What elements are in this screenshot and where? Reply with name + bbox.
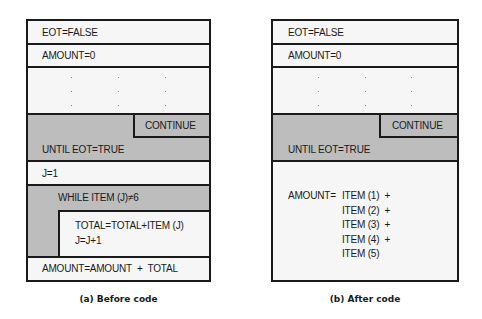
amount-sum-block: AMOUNT= ITEM (1) + ITEM (2) + ITEM (3) +… [273,162,457,280]
amount-label: AMOUNT= [288,190,336,201]
j-init-text: J=1 [42,168,58,179]
after-code-diagram: EOT=FALSE AMOUNT=0 CONTINUE UNTIL EOT=TR… [271,19,459,282]
eot-false-row: EOT=FALSE [273,21,457,45]
ellipsis-row [273,68,457,115]
repeat-until-block: CONTINUE UNTIL EOT=TRUE [28,115,209,162]
before-code-diagram: EOT=FALSE AMOUNT=0 CONTINUE UNTIL EOT=TR… [26,19,211,282]
continue-box: CONTINUE [379,115,457,138]
item-2: ITEM (2) + [342,205,390,216]
item-5: ITEM (5) [342,248,379,259]
eot-false-text: EOT=FALSE [42,27,98,38]
continue-text: CONTINUE [392,120,443,131]
item-3: ITEM (3) + [342,219,390,230]
amount-init-text: AMOUNT=0 [288,50,341,61]
continue-text: CONTINUE [145,120,196,131]
after-code-caption: (b) After code [271,294,459,304]
eot-false-text: EOT=FALSE [288,27,344,38]
until-text: UNTIL EOT=TRUE [288,144,370,155]
ellipsis-row [28,68,209,115]
amount-final-text: AMOUNT=AMOUNT + TOTAL [42,263,178,274]
item-1: ITEM (1) + [342,190,390,201]
before-code-caption: (a) Before code [26,294,211,304]
while-block: WHILE ITEM (J)≠6 TOTAL=TOTAL+ITEM (J) J=… [28,186,209,258]
total-text: TOTAL=TOTAL+ITEM (J) [75,220,184,231]
amount-init-row: AMOUNT=0 [28,45,209,68]
repeat-until-block: CONTINUE UNTIL EOT=TRUE [273,115,457,162]
amount-final-row: AMOUNT=AMOUNT + TOTAL [28,258,209,280]
j-inc-text: J=J+1 [75,235,101,246]
while-body: TOTAL=TOTAL+ITEM (J) J=J+1 [58,210,209,256]
while-text: WHILE ITEM (J)≠6 [58,192,139,203]
amount-init-text: AMOUNT=0 [42,50,95,61]
until-text: UNTIL EOT=TRUE [42,144,124,155]
amount-init-row: AMOUNT=0 [273,45,457,68]
continue-box: CONTINUE [133,115,209,138]
item-4: ITEM (4) + [342,234,390,245]
j-init-row: J=1 [28,162,209,186]
eot-false-row: EOT=FALSE [28,21,209,45]
